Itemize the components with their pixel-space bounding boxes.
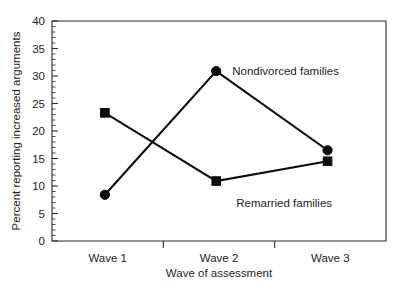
data-point-circle — [212, 66, 221, 75]
chart-background — [0, 0, 405, 293]
data-point-square — [212, 177, 221, 186]
line-chart: 0510152025303540 Wave 1Wave 2Wave 3 Nond… — [0, 0, 405, 293]
y-tick-label: 10 — [32, 180, 45, 192]
y-tick-label: 30 — [32, 70, 45, 82]
y-tick-label: 0 — [39, 235, 45, 247]
x-tick-label: Wave 1 — [88, 252, 127, 264]
x-axis-title: Wave of assessment — [166, 267, 273, 279]
x-tick-label: Wave 2 — [200, 252, 239, 264]
annotation-nondivorced-families: Nondivorced families — [232, 65, 339, 77]
y-tick-label: 15 — [32, 153, 45, 165]
y-tick-label: 20 — [32, 125, 45, 137]
y-axis-title: Percent reporting increased arguments — [10, 31, 22, 230]
annotation-remarried-families: Remarried families — [236, 197, 332, 209]
data-point-square — [101, 109, 110, 118]
y-tick-label: 35 — [32, 43, 45, 55]
data-point-circle — [323, 146, 332, 155]
y-tick-label: 5 — [39, 208, 45, 220]
y-tick-label: 40 — [32, 15, 45, 27]
data-point-square — [323, 157, 332, 166]
chart-figure: 0510152025303540 Wave 1Wave 2Wave 3 Nond… — [0, 0, 405, 293]
y-tick-label: 25 — [32, 98, 45, 110]
x-tick-label: Wave 3 — [311, 252, 350, 264]
data-point-circle — [100, 190, 109, 199]
